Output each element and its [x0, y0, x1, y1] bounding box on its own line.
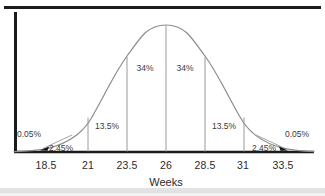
- bell-curve: [14, 25, 314, 152]
- pct-label-left-outer: 0.05%: [17, 129, 41, 139]
- x-tick-label-18-5: 18.5: [35, 159, 56, 171]
- chart-figure: 0.05% 2.45% 13.5% 34% 34% 13.5% 2.45% 0.…: [0, 0, 325, 196]
- pct-label-left-mid: 2.45%: [49, 143, 73, 153]
- left-tail-arrow-icon: [40, 147, 49, 151]
- x-tick-label-28-5: 28.5: [194, 159, 215, 171]
- x-tick-label-23-5: 23.5: [116, 159, 137, 171]
- bottom-edge-band-2: [0, 193, 325, 196]
- pct-label-center-left: 34%: [136, 63, 153, 73]
- x-tick-label-31: 31: [237, 159, 249, 171]
- pct-label-center-right: 34%: [176, 63, 193, 73]
- x-tick-label-33-5: 33.5: [272, 159, 293, 171]
- pct-label-right-outer: 0.05%: [285, 129, 309, 139]
- x-tick-label-26: 26: [160, 159, 172, 171]
- pct-label-left-inner: 13.5%: [95, 121, 119, 131]
- pct-label-right-mid: 2.45%: [252, 143, 276, 153]
- x-axis-title: Weeks: [149, 176, 182, 188]
- pct-label-right-inner: 13.5%: [212, 121, 236, 131]
- x-tick-label-21: 21: [82, 159, 94, 171]
